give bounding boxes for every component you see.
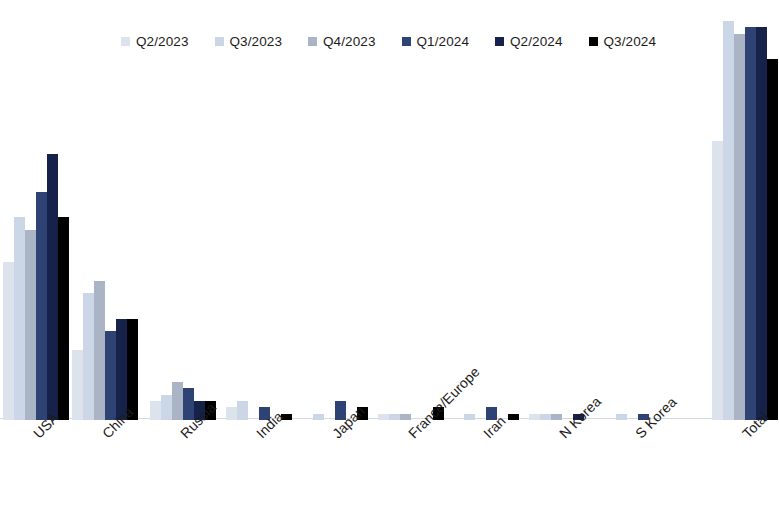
bar[interactable] — [734, 34, 745, 420]
bar-column[interactable]: 1 — [573, 2, 584, 420]
bar-column[interactable]: 2 — [226, 2, 237, 420]
bar-column[interactable]: 3 — [205, 2, 216, 420]
bar-group: 112022141616 — [72, 2, 138, 420]
bar-group: 253230364232 — [3, 2, 69, 420]
bar-column[interactable]: 0 — [605, 2, 616, 420]
bar[interactable] — [83, 293, 94, 420]
bar-column[interactable]: 3 — [335, 2, 346, 420]
bar-column[interactable]: 3 — [237, 2, 248, 420]
bar[interactable] — [150, 401, 161, 420]
bar-column[interactable]: 25 — [3, 2, 14, 420]
bar[interactable] — [58, 217, 69, 420]
bar-column[interactable]: 2 — [433, 2, 444, 420]
bar[interactable] — [237, 401, 248, 420]
bar-column[interactable]: 2 — [357, 2, 368, 420]
bar-column[interactable]: 44 — [712, 2, 723, 420]
bar-group: 010302 — [302, 2, 368, 420]
bar-column[interactable]: 1 — [400, 2, 411, 420]
bar[interactable] — [226, 407, 237, 420]
bar-column[interactable]: 32 — [58, 2, 69, 420]
bar[interactable] — [105, 331, 116, 420]
bar-column[interactable]: 0 — [627, 2, 638, 420]
bar-column[interactable]: 5 — [183, 2, 194, 420]
bar-column[interactable]: 30 — [25, 2, 36, 420]
bar-column[interactable]: 1 — [389, 2, 400, 420]
bar-column[interactable]: 20 — [83, 2, 94, 420]
bar[interactable] — [127, 319, 138, 420]
bar-column[interactable]: 32 — [14, 2, 25, 420]
bar-column[interactable]: 1 — [464, 2, 475, 420]
bar-column[interactable]: 0 — [660, 2, 671, 420]
bar-column[interactable]: 0 — [649, 2, 660, 420]
bar-column[interactable]: 16 — [127, 2, 138, 420]
bar[interactable] — [723, 21, 734, 420]
bar-column[interactable]: 1 — [313, 2, 324, 420]
bar-column[interactable]: 6 — [172, 2, 183, 420]
bar-column[interactable]: 0 — [422, 2, 433, 420]
bar-column[interactable]: 0 — [270, 2, 281, 420]
bar-column[interactable]: 0 — [346, 2, 357, 420]
bar[interactable] — [756, 27, 767, 420]
bar-column[interactable]: 63 — [723, 2, 734, 420]
bar-column[interactable]: 1 — [529, 2, 540, 420]
bar-column[interactable]: 57 — [767, 2, 778, 420]
bar[interactable] — [72, 350, 83, 420]
bar-column[interactable]: 0 — [302, 2, 313, 420]
bar-column[interactable]: 42 — [47, 2, 58, 420]
bar[interactable] — [94, 281, 105, 420]
bar-group: 446361626257 — [712, 2, 778, 420]
bar-column[interactable]: 1 — [281, 2, 292, 420]
bar-column[interactable]: 62 — [745, 2, 756, 420]
bar-column[interactable]: 11 — [72, 2, 83, 420]
bar-group: 111010 — [529, 2, 595, 420]
bar-column[interactable]: 61 — [734, 2, 745, 420]
bar[interactable] — [767, 59, 778, 420]
bar-column[interactable]: 22 — [94, 2, 105, 420]
bar-group: 346533 — [150, 2, 216, 420]
bar-group: 111002 — [378, 2, 444, 420]
bar-column[interactable]: 0 — [411, 2, 422, 420]
bar[interactable] — [172, 382, 183, 420]
bar-column[interactable]: 4 — [161, 2, 172, 420]
bar-column[interactable]: 2 — [259, 2, 270, 420]
plot-area: 2532303642321120221416163465332302010103… — [0, 0, 777, 420]
bar-group: 230201 — [226, 2, 292, 420]
bar-column[interactable]: 1 — [508, 2, 519, 420]
bar[interactable] — [712, 141, 723, 420]
bar-group: 010201 — [453, 2, 519, 420]
bar-column[interactable]: 0 — [453, 2, 464, 420]
bar[interactable] — [36, 192, 47, 420]
bar[interactable] — [3, 262, 14, 420]
bar-column[interactable]: 0 — [584, 2, 595, 420]
bar-column[interactable]: 3 — [150, 2, 161, 420]
bar-column[interactable]: 36 — [36, 2, 47, 420]
bar[interactable] — [25, 230, 36, 420]
bar-group: 010100 — [605, 2, 671, 420]
bar-column[interactable]: 62 — [756, 2, 767, 420]
bar-column[interactable]: 0 — [324, 2, 335, 420]
bar-column[interactable]: 16 — [116, 2, 127, 420]
bar-column[interactable]: 0 — [497, 2, 508, 420]
bar-column[interactable]: 0 — [562, 2, 573, 420]
bar[interactable] — [14, 217, 25, 420]
bar[interactable] — [745, 27, 756, 420]
bar-column[interactable]: 1 — [378, 2, 389, 420]
category-axis-labels: USAChinaRussiaIndiaJapanFrance/EuropeIra… — [0, 420, 777, 513]
bar-column[interactable]: 2 — [486, 2, 497, 420]
bar-column[interactable]: 14 — [105, 2, 116, 420]
bar-column[interactable]: 1 — [551, 2, 562, 420]
bar-column[interactable]: 0 — [475, 2, 486, 420]
bar[interactable] — [161, 395, 172, 420]
bar-column[interactable]: 1 — [638, 2, 649, 420]
bar-column[interactable]: 3 — [194, 2, 205, 420]
bar[interactable] — [47, 154, 58, 420]
bar-column[interactable]: 1 — [616, 2, 627, 420]
bar-column[interactable]: 1 — [540, 2, 551, 420]
bar-column[interactable]: 0 — [248, 2, 259, 420]
